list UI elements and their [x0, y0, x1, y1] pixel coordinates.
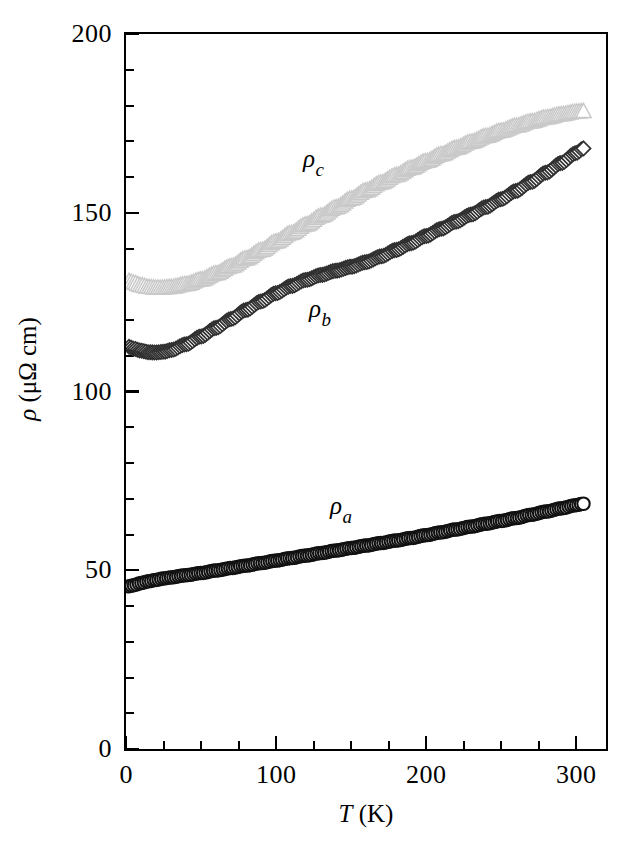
y-tick-label-group: 050100150200: [46, 32, 112, 751]
y-axis-title: ρ (μΩ cm): [14, 249, 42, 489]
series-rho-a: [126, 498, 590, 593]
x-axis-title-units: (K): [352, 800, 393, 827]
x-tick-label: 200: [406, 762, 447, 788]
x-tick-label: 300: [556, 762, 597, 788]
series-label-symbol: ρ: [309, 295, 321, 322]
x-tick-label: 0: [119, 762, 133, 788]
series-label-symbol: ρ: [330, 492, 342, 519]
x-tick-label: 100: [256, 762, 297, 788]
series-label-subscript: c: [316, 159, 324, 180]
x-axis-title-symbol: T: [339, 800, 353, 827]
series-label-symbol: ρ: [303, 145, 315, 172]
data-curves: [126, 34, 606, 749]
y-axis-title-symbol: ρ: [14, 409, 41, 421]
plot-area: ρcρbρa: [124, 32, 608, 751]
series-label-subscript: b: [322, 309, 332, 330]
resistivity-figure: 050100150200 0100200300 ρcρbρa T (K) ρ (…: [0, 0, 639, 842]
rho-a-label: ρa: [330, 493, 352, 526]
series-rho-b: [126, 141, 591, 359]
y-tick-label: 150: [72, 200, 113, 226]
x-axis-title: T (K): [124, 800, 608, 828]
caption-partial-text: [30, 832, 610, 842]
y-tick-label: 200: [72, 21, 113, 47]
x-tick-label-group: 0100200300: [124, 762, 608, 796]
rho-b-label: ρb: [309, 296, 331, 329]
y-axis-title-units: (μΩ cm): [14, 317, 41, 409]
series-label-subscript: a: [343, 506, 353, 527]
y-tick-label: 0: [99, 736, 113, 762]
y-tick-label: 50: [85, 557, 112, 583]
rho-c-label: ρc: [303, 146, 323, 179]
y-tick-label: 100: [72, 379, 113, 405]
